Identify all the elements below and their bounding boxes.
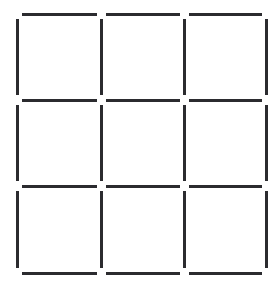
- figure-background: [0, 0, 277, 283]
- matchstick-figure: [0, 0, 277, 283]
- matchstick-grid: [0, 0, 277, 283]
